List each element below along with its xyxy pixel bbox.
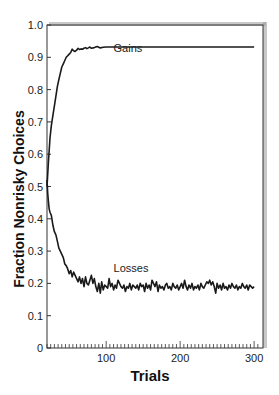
series-lines bbox=[47, 47, 254, 294]
series-gains-label: Gains bbox=[114, 42, 143, 54]
x-tick-label: 300 bbox=[245, 352, 263, 364]
x-tick-label: 100 bbox=[97, 352, 115, 364]
plot-frame-shadow bbox=[49, 22, 267, 348]
x-axis-ticks: 100200300 bbox=[47, 341, 263, 364]
x-tick-label: 200 bbox=[171, 352, 189, 364]
line-chart: 00.10.20.30.40.50.60.70.80.91.0 10020030… bbox=[0, 0, 279, 395]
plot-frame bbox=[47, 25, 263, 348]
x-axis-title: Trials bbox=[130, 367, 169, 384]
y-tick-label: 0.1 bbox=[28, 310, 43, 322]
y-tick-label: 0.8 bbox=[28, 84, 43, 96]
y-axis-title: Fraction Nonrisky Choices bbox=[11, 110, 27, 288]
series-losses-label: Losses bbox=[114, 262, 149, 274]
y-tick-label: 0.9 bbox=[28, 51, 43, 63]
series-labels: GainsLosses bbox=[114, 42, 149, 274]
series-losses-line bbox=[47, 180, 254, 293]
y-tick-label: 0.3 bbox=[28, 245, 43, 257]
series-gains-line bbox=[47, 47, 254, 187]
y-tick-label: 1.0 bbox=[28, 19, 43, 31]
y-tick-label: 0 bbox=[37, 342, 43, 354]
y-tick-label: 0.2 bbox=[28, 277, 43, 289]
y-tick-label: 0.5 bbox=[28, 181, 43, 193]
y-tick-label: 0.7 bbox=[28, 116, 43, 128]
y-tick-label: 0.6 bbox=[28, 148, 43, 160]
y-tick-label: 0.4 bbox=[28, 213, 43, 225]
